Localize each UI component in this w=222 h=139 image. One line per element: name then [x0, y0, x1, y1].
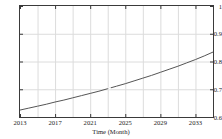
- y-tick-label: 1: [205, 3, 222, 10]
- y-tick-label: 0.9: [205, 30, 222, 37]
- x-tick-label: 2017: [38, 119, 72, 127]
- gridlines: [20, 6, 213, 117]
- series-break-marker: [108, 87, 111, 89]
- plot-canvas: [20, 6, 213, 117]
- x-tick-label: 2021: [73, 119, 107, 127]
- x-tick-label: 2013: [3, 119, 37, 127]
- x-axis-label: Time (Month): [0, 128, 222, 136]
- plot-area: [19, 5, 214, 118]
- x-tick-label: 2025: [108, 119, 142, 127]
- chart-title: Forecast of Groundwater Abstraction: [0, 0, 222, 1]
- y-tick-label: 0.7: [205, 86, 222, 93]
- y-tick-label: 0.8: [205, 58, 222, 65]
- series-line: [20, 52, 213, 110]
- x-tick-label: 2029: [143, 119, 177, 127]
- chart-figure: Forecast of Groundwater Abstraction 10.9…: [0, 0, 222, 139]
- x-tick-label: 2033: [178, 119, 212, 127]
